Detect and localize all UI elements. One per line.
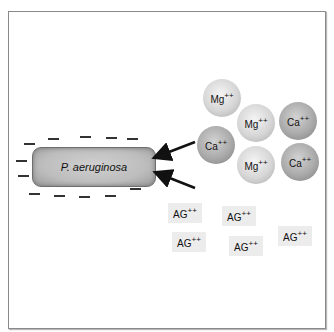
mg-ion: Mg++ [237,104,275,142]
ca-ion: Ca++ [197,126,235,164]
ca-ion: Ca++ [279,102,317,140]
aminoglycoside-label: AG++ [172,232,206,252]
aminoglycoside-label: AG++ [168,203,202,223]
aminoglycoside-label: AG++ [278,226,312,246]
ca-ion: Ca++ [281,143,319,181]
aminoglycoside-label: AG++ [222,206,256,226]
mg-ion: Mg++ [203,79,241,117]
arrow-icon [156,142,195,157]
arrow-icon [157,173,195,188]
mg-ion: Mg++ [237,146,275,184]
aminoglycoside-label: AG++ [229,236,263,256]
